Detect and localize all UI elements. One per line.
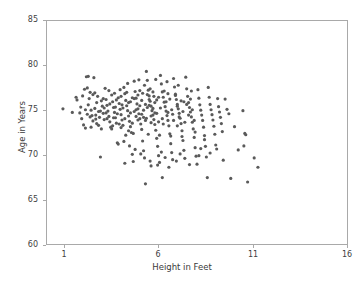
scatter-point [143,156,146,159]
scatter-point [113,92,116,95]
scatter-point [119,95,122,98]
scatter-point [107,89,110,92]
scatter-point [208,96,211,99]
scatter-point [172,119,175,122]
scatter-point [129,100,132,103]
scatter-point [176,124,179,127]
scatter-point [123,162,126,165]
scatter-point [93,107,96,110]
scatter-point [134,90,137,93]
scatter-point [172,77,175,80]
scatter-point [170,151,173,154]
scatter-point [242,144,245,147]
scatter-point [92,76,95,79]
scatter-point [141,139,144,142]
scatter-point [152,118,155,121]
scatter-point [151,90,154,93]
scatter-point [119,108,122,111]
scatter-point [190,89,193,92]
scatter-point [237,148,240,151]
scatter-point [139,152,142,155]
scatter-point [125,91,128,94]
scatter-point [97,124,100,127]
scatter-point [127,114,130,117]
scatter-point [194,155,197,158]
scatter-point [115,122,118,125]
scatter-point [133,110,136,113]
scatter-point [193,136,196,139]
scatter-point [119,126,122,129]
scatter-point [166,111,169,114]
scatter-point [142,116,145,119]
scatter-point [137,78,140,81]
scatter-point [126,82,129,85]
scatter-point [103,106,106,109]
scatter-point [102,97,105,100]
scatter-point [129,125,132,128]
scatter-point [144,103,147,106]
scatter-point [87,75,90,78]
scatter-point [174,94,177,97]
scatter-point [215,147,218,150]
scatter-point [209,103,212,106]
scatter-point [108,120,111,123]
scatter-point [211,118,214,121]
scatter-point [169,134,172,137]
y-tick-label-65: 65 [14,195,38,204]
scatter-point [122,140,125,143]
scatter-point [204,145,207,148]
scatter-point [142,109,145,112]
scatter-point [91,119,94,122]
scatter-point [120,118,123,121]
scatter-point [166,92,169,95]
scatter-point [167,124,170,127]
scatter-point [146,93,149,96]
scatter-point [95,101,98,104]
scatter-point [138,89,141,92]
scatter-point [183,157,186,160]
scatter-point [168,97,171,100]
scatter-point [241,109,244,112]
x-tick-mark-16 [347,245,348,248]
x-tick-label-6: 6 [146,250,170,259]
scatter-point [116,112,119,115]
scatter-point [90,114,93,117]
scatter-point [158,134,161,137]
scatter-point [136,93,139,96]
scatter-point [80,117,83,120]
scatter-point [93,91,96,94]
scatter-point [222,159,225,162]
scatter-point [104,87,107,90]
scatter-point [191,108,194,111]
scatter-point [210,113,213,116]
scatter-point [180,129,183,132]
scatter-point [149,121,152,124]
scatter-point [146,106,149,109]
scatter-point [182,149,185,152]
scatter-point [140,128,143,131]
scatter-point [187,114,190,117]
scatter-point [124,99,127,102]
scatter-point [84,126,87,129]
scatter-point [166,119,169,122]
scatter-point [205,155,208,158]
scatter-point [151,107,154,110]
y-tick-label-60: 60 [14,240,38,249]
scatter-point [175,159,178,162]
scatter-point [149,87,152,90]
scatter-point [122,86,125,89]
scatter-point [156,163,159,166]
scatter-point [197,97,200,100]
scatter-chart-figure: 85 80 75 70 65 60 1 6 11 16 Height in Fe… [0,0,364,284]
scatter-point [192,127,195,130]
scatter-point [199,109,202,112]
scatter-point [132,132,135,135]
scatter-point [213,133,216,136]
scatter-point [75,98,78,101]
y-axis-label: Age in Years [17,67,27,187]
scatter-point [165,114,168,117]
scatter-point [209,108,212,111]
scatter-point [129,111,132,114]
scatter-point [71,111,74,114]
scatter-point [94,118,97,121]
